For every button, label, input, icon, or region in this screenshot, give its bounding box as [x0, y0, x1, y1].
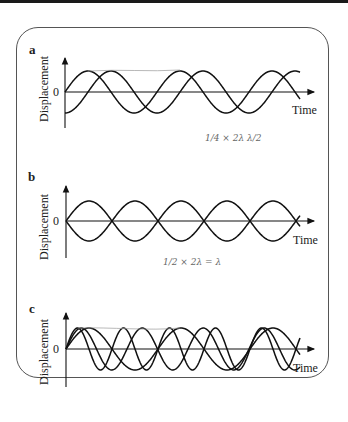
- wave-plots: [0, 0, 348, 422]
